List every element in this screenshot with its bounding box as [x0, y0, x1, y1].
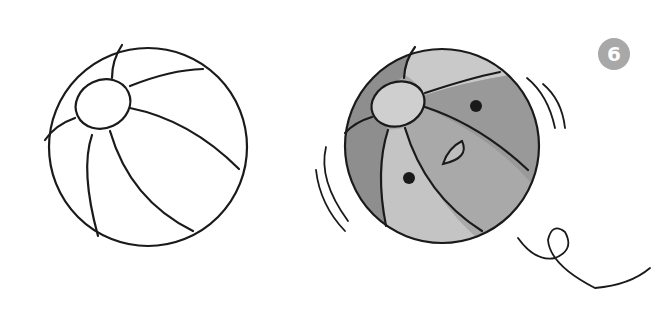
colored-beach-ball: [340, 40, 550, 255]
outline-beach-ball: [45, 45, 247, 246]
illustration-canvas: [0, 0, 668, 321]
step-number-badge: 6: [598, 38, 630, 70]
step-number: 6: [607, 42, 621, 66]
eye-icon: [403, 172, 415, 184]
eye-icon: [470, 100, 482, 112]
